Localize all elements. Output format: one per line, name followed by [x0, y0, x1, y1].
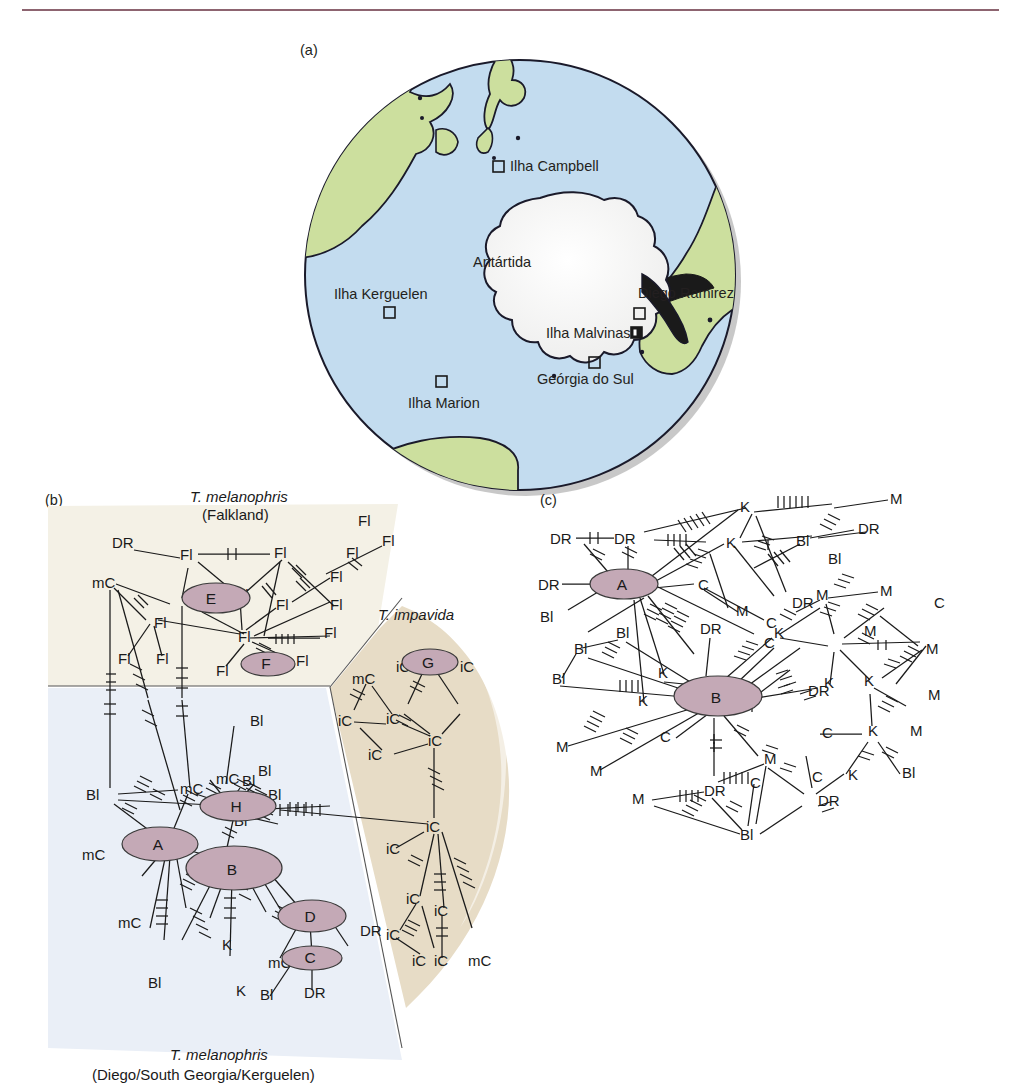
- tip-label: K: [658, 664, 668, 681]
- region-title-impavida: T. impavida: [378, 606, 454, 623]
- tip-label: M: [816, 586, 829, 603]
- header-cropped-text: [120, 0, 900, 2]
- node-label-c-A: A: [617, 576, 628, 593]
- tip-label: K: [848, 766, 858, 783]
- map-dot: [397, 85, 402, 90]
- map-dot: [420, 116, 424, 120]
- panel-c-edges: [560, 500, 926, 834]
- tip-label: K: [638, 692, 648, 709]
- map-dot: [492, 156, 496, 160]
- node-label-C: C: [304, 949, 315, 966]
- tip-label: Fl: [216, 662, 229, 679]
- tip-label: Bl: [902, 764, 915, 781]
- map-dot: [708, 318, 713, 323]
- panel-b-network: T. melanophris (Falkland) T. impavida T.…: [30, 488, 540, 1086]
- tip-label: Bl: [260, 986, 273, 1003]
- tip-label: M: [890, 490, 903, 507]
- tip-label: Fl: [276, 596, 289, 613]
- tip-label: mC: [352, 670, 375, 687]
- map-dot: [414, 76, 418, 80]
- site-label-ilha-campbell: Ilha Campbell: [510, 158, 599, 174]
- tip-label: K: [740, 498, 750, 515]
- tip-label: M: [880, 582, 893, 599]
- map-dot: [516, 136, 520, 140]
- node-label-B: B: [227, 861, 237, 878]
- tip-label: DR: [614, 530, 636, 547]
- site-label-ilha-kerguelen: Ilha Kerguelen: [334, 286, 428, 302]
- site-marker-ilha-malvinas-inner: [634, 330, 637, 336]
- figure-root: (a): [0, 0, 1021, 1086]
- region-title-dsk-line1: T. melanophris: [170, 1046, 268, 1063]
- tip-label: DR: [304, 984, 326, 1001]
- tip-label: Fl: [382, 532, 395, 549]
- tip-label: C: [812, 768, 823, 785]
- tip-label: Fl: [118, 650, 131, 667]
- region-title-dsk-line2: (Diego/South Georgia/Kerguelen): [92, 1066, 315, 1083]
- tip-label: Bl: [250, 712, 263, 729]
- region-title-falkland-line1: T. melanophris: [190, 488, 288, 505]
- tip-label: iC: [426, 818, 440, 835]
- tip-label: iC: [386, 926, 400, 943]
- tip-label: DR: [360, 922, 382, 939]
- tip-label: M: [632, 790, 645, 807]
- tip-label: Fl: [296, 652, 309, 669]
- map-label-antartida: Antártida: [473, 254, 532, 270]
- node-label-A: A: [153, 836, 164, 853]
- node-label-H: H: [230, 798, 241, 815]
- tip-label: M: [928, 686, 941, 703]
- tip-label: iC: [338, 712, 352, 729]
- tip-label: iC: [434, 952, 448, 969]
- tip-label: mC: [180, 780, 203, 797]
- tip-label: iC: [386, 710, 400, 727]
- site-label-diego-ramirez: Diego Ramirez: [638, 285, 734, 301]
- panel-c-tips: DR DR DR Bl K K M C C M Bl DR Bl M M M K…: [538, 490, 945, 843]
- panel-a-map: Ilha Campbell Diego Ramirez Ilha Kerguel…: [290, 30, 790, 500]
- tip-label: Bl: [552, 670, 565, 687]
- tip-label: mC: [118, 914, 141, 931]
- tip-label: Bl: [242, 772, 255, 789]
- node-label-c-B: B: [711, 689, 721, 706]
- panel-c-network: DR DR DR Bl K K M C C M Bl DR Bl M M M K…: [528, 488, 1021, 878]
- tip-label: Fl: [330, 568, 343, 585]
- map-dot: [384, 100, 388, 104]
- tip-label: C: [934, 594, 945, 611]
- tip-label: Bl: [574, 640, 587, 657]
- tip-label: mC: [468, 952, 491, 969]
- tip-label: M: [864, 622, 877, 639]
- tip-label: K: [774, 624, 784, 641]
- tip-label: Bl: [86, 786, 99, 803]
- tip-label: K: [222, 936, 232, 953]
- tip-label: iC: [368, 746, 382, 763]
- tip-label: M: [910, 722, 923, 739]
- tip-label: Fl: [238, 628, 251, 645]
- tip-label: M: [556, 738, 569, 755]
- tip-label: mC: [92, 574, 115, 591]
- tip-label: iC: [428, 732, 442, 749]
- tip-label: Fl: [330, 596, 343, 613]
- tip-label: C: [698, 576, 709, 593]
- tip-label: C: [822, 724, 833, 741]
- node-label-G: G: [422, 654, 434, 671]
- tip-label: C: [764, 634, 775, 651]
- tip-label: Bl: [148, 974, 161, 991]
- tip-label: Fl: [358, 512, 371, 529]
- tip-label: DR: [700, 620, 722, 637]
- tip-label: Bl: [740, 826, 753, 843]
- tip-label: iC: [386, 840, 400, 857]
- tip-label: M: [764, 750, 777, 767]
- tip-label: Fl: [180, 546, 193, 563]
- node-label-F: F: [261, 655, 270, 672]
- node-label-D: D: [304, 908, 315, 925]
- tip-label: K: [868, 722, 878, 739]
- tip-label: K: [864, 672, 874, 689]
- map-dot: [640, 350, 644, 354]
- tip-label: M: [926, 640, 939, 657]
- tip-label: M: [590, 762, 603, 779]
- tip-label: DR: [704, 782, 726, 799]
- tip-label: M: [736, 602, 749, 619]
- tip-label: DR: [792, 594, 814, 611]
- tip-label: mC: [82, 846, 105, 863]
- tip-label: Bl: [616, 624, 629, 641]
- tip-label: K: [726, 534, 736, 551]
- site-label-georgia-do-sul: Geórgia do Sul: [537, 371, 634, 387]
